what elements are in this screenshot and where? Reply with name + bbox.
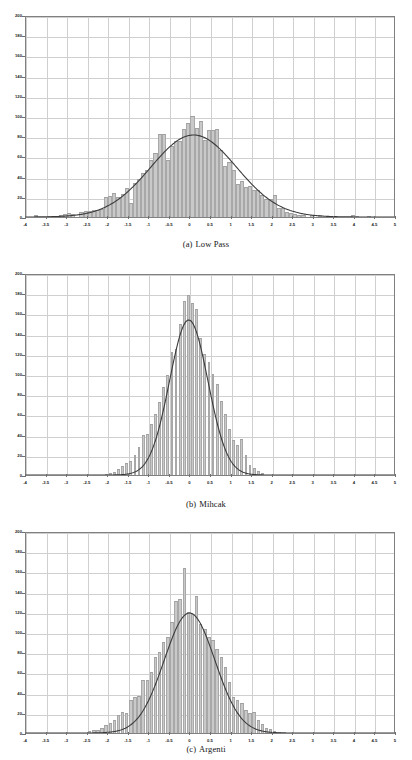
histogram-bar <box>142 435 145 475</box>
x-axis-tick-label: -2 <box>105 481 109 485</box>
x-axis-tick-label: -3 <box>64 739 68 743</box>
y-axis-tick-label: 160 <box>15 54 22 58</box>
histogram-bar <box>88 731 91 733</box>
histogram-bar <box>109 723 112 733</box>
histogram-bar <box>220 401 223 475</box>
histogram-bar <box>228 429 231 475</box>
histogram-bar <box>166 375 169 475</box>
x-axis-tick-label: -2.5 <box>83 739 90 743</box>
x-axis-tick-mark <box>333 216 334 219</box>
x-axis-tick-mark <box>354 474 355 477</box>
x-axis-tick-label: -1.5 <box>124 481 131 485</box>
x-axis-tick-mark <box>66 216 67 219</box>
y-axis-b: 020406080100120140160180200 <box>0 274 22 476</box>
histogram-bar <box>228 682 231 734</box>
x-axis-tick-mark <box>87 732 88 735</box>
histogram-bar <box>252 712 255 733</box>
x-axis-tick-mark <box>25 474 26 477</box>
x-axis-tick-label: -0.5 <box>165 739 172 743</box>
histogram-bar <box>183 301 186 475</box>
histogram-bar <box>245 455 248 475</box>
x-axis-tick-label: -3 <box>64 481 68 485</box>
histogram-bar <box>195 596 198 733</box>
x-axis-tick-label: -3.5 <box>42 739 49 743</box>
figure-histogram-comparison: 020406080100120140160180200 -4-3.5-3-2.5… <box>0 0 412 760</box>
histogram-bar <box>125 713 128 733</box>
x-axis-tick-mark <box>374 732 375 735</box>
y-axis-tick-label: 200 <box>15 14 22 18</box>
x-axis-tick-mark <box>107 216 108 219</box>
histogram-bar <box>121 466 124 475</box>
histogram-bar <box>232 697 235 733</box>
x-axis-tick-label: 4.5 <box>372 739 378 743</box>
histogram-bar <box>96 730 99 733</box>
x-axis-tick-mark <box>354 732 355 735</box>
histogram-bar <box>244 710 247 733</box>
x-axis-tick-label: -1 <box>146 223 150 227</box>
histogram-bar <box>224 667 227 733</box>
y-axis-tick-label: 100 <box>15 115 22 119</box>
histogram-bar <box>162 642 165 733</box>
x-axis-tick-mark <box>46 474 47 477</box>
x-axis-tick-label: 3.5 <box>330 739 336 743</box>
x-axis-tick-mark <box>189 216 190 219</box>
plot-box-c <box>25 532 395 734</box>
x-axis-tick-mark <box>169 216 170 219</box>
y-axis-tick-label: 160 <box>15 570 22 574</box>
x-axis-tick-mark <box>148 216 149 219</box>
x-axis-tick-label: 1 <box>229 481 231 485</box>
caption-a: (a)Low Pass <box>0 239 412 249</box>
x-axis-tick-label: -2 <box>105 223 109 227</box>
x-axis-tick-mark <box>169 474 170 477</box>
y-axis-tick-label: 100 <box>15 631 22 635</box>
histogram-bar <box>334 216 338 217</box>
plot-box-a <box>25 16 395 218</box>
y-axis-tick-label: 180 <box>15 34 22 38</box>
histogram-bars-b <box>26 275 394 475</box>
histogram-bar <box>146 680 149 733</box>
histogram-bar <box>92 730 95 733</box>
x-axis-tick-mark <box>374 216 375 219</box>
y-axis-tick-label: 120 <box>15 353 22 357</box>
x-axis-tick-label: 1 <box>229 739 231 743</box>
x-axis-tick-mark <box>128 474 129 477</box>
caption-b-label: (b) <box>186 499 196 509</box>
histogram-bar <box>171 352 174 475</box>
x-axis-tick-label: -3.5 <box>42 223 49 227</box>
histogram-bar <box>212 374 215 475</box>
histogram-bar <box>199 624 202 733</box>
histogram-bar <box>195 309 198 475</box>
x-axis-tick-mark <box>354 216 355 219</box>
plot-area-b: 020406080100120140160180200 -4-3.5-3-2.5… <box>0 258 412 490</box>
histogram-bar <box>178 599 181 733</box>
histogram-bar <box>240 703 243 733</box>
histogram-bar <box>150 424 153 476</box>
x-axis-tick-label: 3 <box>312 223 314 227</box>
caption-c-label: (c) <box>186 744 196 754</box>
x-axis-tick-mark <box>313 732 314 735</box>
histogram-bar <box>203 354 206 475</box>
histogram-bar <box>154 414 157 475</box>
histogram-bar <box>220 657 223 733</box>
histogram-bar <box>162 387 165 475</box>
histogram-bar <box>236 700 239 733</box>
x-axis-tick-mark <box>272 474 273 477</box>
histogram-bar <box>117 715 120 733</box>
histogram-bar <box>277 732 280 733</box>
histogram-bar <box>47 216 51 217</box>
x-axis-tick-label: 4 <box>353 223 355 227</box>
x-axis-tick-label: -3 <box>64 223 68 227</box>
histogram-bar <box>265 728 268 733</box>
histogram-bar <box>318 215 322 217</box>
histogram-bar <box>137 696 140 733</box>
histogram-bar <box>183 568 186 733</box>
x-axis-tick-label: 5 <box>394 739 396 743</box>
x-axis-tick-mark <box>251 732 252 735</box>
histogram-bar <box>236 445 239 475</box>
histogram-bar <box>191 303 194 475</box>
x-axis-tick-label: 3 <box>312 739 314 743</box>
x-axis-tick-label: 2.5 <box>289 739 295 743</box>
x-axis-tick-label: -3.5 <box>42 481 49 485</box>
x-axis-tick-label: -0.5 <box>165 223 172 227</box>
caption-a-label: (a) <box>183 239 193 249</box>
